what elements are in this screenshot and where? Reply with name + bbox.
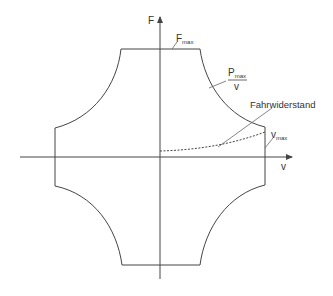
traction-force-diagram: F v Fmax Pmax v Fahrwiderstand vmax <box>0 0 333 296</box>
x-axis-label: v <box>281 161 286 172</box>
fmax-label: Fmax <box>176 33 193 45</box>
y-axis-label: F <box>148 15 154 26</box>
pmax-label-denominator: v <box>234 81 239 92</box>
resistance-curve <box>160 132 265 151</box>
pmax-label-numerator: Pmax <box>228 67 246 79</box>
resistance-label: Fahrwiderstand <box>250 99 315 110</box>
resistance-leader <box>218 108 272 147</box>
vmax-label: vmax <box>271 129 287 141</box>
